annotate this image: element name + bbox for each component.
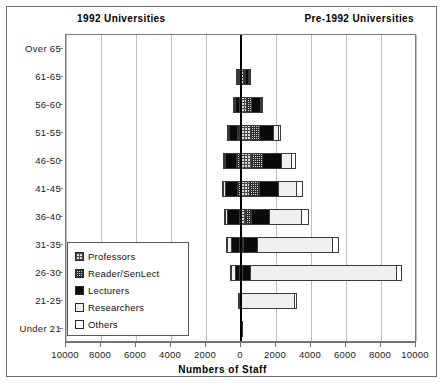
bar-segment — [396, 265, 402, 281]
legend-item[interactable]: Others — [75, 316, 184, 333]
stacked-bar-left — [224, 125, 241, 141]
x-axis-title: Numbers of Staff — [0, 364, 445, 375]
panel-header-left: 1992 Universities — [77, 13, 166, 24]
stacked-bar-right — [241, 237, 344, 253]
bar-segment — [269, 209, 302, 225]
x-axis-tick-label: 4000 — [159, 349, 181, 360]
x-axis-tick-label: 2000 — [194, 349, 216, 360]
bar-segment — [291, 153, 296, 169]
x-axis-tick — [135, 342, 136, 347]
x-axis-tick — [240, 342, 241, 347]
bar-segment — [278, 125, 281, 141]
bar-segment — [259, 125, 274, 141]
bar-segment — [250, 265, 397, 281]
y-axis-label: 51-55 — [35, 127, 61, 138]
stacked-bar-right — [241, 265, 404, 281]
stacked-bar-right — [241, 293, 300, 309]
x-axis-tick — [345, 342, 346, 347]
stacked-bar-left — [224, 237, 242, 253]
stacked-bar-right — [241, 69, 254, 85]
y-axis-label: 46-50 — [35, 155, 61, 166]
x-axis-tick — [100, 342, 101, 347]
bar-segment — [225, 181, 238, 197]
y-axis-label: 21-25 — [35, 295, 61, 306]
x-axis-tick — [170, 342, 171, 347]
stacked-bar-right — [241, 209, 314, 225]
legend-item[interactable]: Professors — [75, 248, 184, 265]
stacked-bar-right — [241, 125, 286, 141]
gridline — [416, 35, 417, 341]
bar-segment — [296, 181, 303, 197]
x-axis-tick-label: 6000 — [334, 349, 356, 360]
x-axis-tick-label: 10000 — [401, 349, 428, 360]
panel-header-right: Pre-1992 Universities — [304, 13, 414, 24]
bar-segment — [261, 97, 263, 113]
bar-segment — [262, 153, 282, 169]
y-axis-label: 26-30 — [35, 267, 61, 278]
researchers-swatch — [75, 303, 84, 312]
bar-segment — [259, 181, 280, 197]
y-axis-label: 31-35 — [35, 239, 61, 250]
x-axis-tick-label: 2000 — [264, 349, 286, 360]
bar-segment — [294, 293, 297, 309]
x-axis-tick — [65, 342, 66, 347]
legend-label: Reader/SenLect — [88, 268, 159, 279]
x-axis-tick-label: 4000 — [299, 349, 321, 360]
legend-label: Professors — [88, 251, 135, 262]
chart-figure: 1992 Universities Pre-1992 Universities … — [0, 0, 445, 387]
professors-swatch — [75, 252, 84, 261]
y-axis-label: Under 21 — [20, 323, 61, 334]
stacked-bar-right — [241, 181, 308, 197]
legend-item[interactable]: Lecturers — [75, 282, 184, 299]
stacked-bar-left — [219, 153, 241, 169]
bar-segment — [257, 237, 332, 253]
bar-segment — [251, 209, 270, 225]
bar-segment — [243, 237, 259, 253]
x-axis-tick — [275, 342, 276, 347]
panel-headers: 1992 Universities Pre-1992 Universities — [65, 10, 416, 34]
y-axis-label: Over 65 — [25, 43, 61, 54]
legend-label: Lecturers — [88, 285, 129, 296]
y-axis-label: 56-60 — [35, 99, 61, 110]
y-axis-label: 36-40 — [35, 211, 61, 222]
stacked-bar-right — [241, 153, 301, 169]
x-axis-tick-label: 6000 — [124, 349, 146, 360]
stacked-bar-left — [220, 209, 241, 225]
y-axis-label: 41-45 — [35, 183, 61, 194]
x-axis-tick — [310, 342, 311, 347]
legend-item[interactable]: Reader/SenLect — [75, 265, 184, 282]
x-axis-tick-label: 8000 — [89, 349, 111, 360]
bar-segment — [332, 237, 340, 253]
x-axis-tick-label: 0 — [237, 349, 242, 360]
chart-legend: ProfessorsReader/SenLectLecturersResearc… — [67, 242, 189, 336]
x-axis-tick-label: 8000 — [369, 349, 391, 360]
stacked-bar-right — [241, 97, 268, 113]
bar-segment — [249, 69, 251, 85]
y-axis-labels: Over 6561-6556-6051-5546-5041-4536-4031-… — [6, 34, 63, 342]
x-axis-tick — [380, 342, 381, 347]
x-axis-tick — [205, 342, 206, 347]
legend-label: Researchers — [88, 302, 144, 313]
others-swatch — [75, 320, 84, 329]
bar-segment — [301, 209, 309, 225]
stacked-bar-left — [218, 181, 241, 197]
bar-segment — [278, 181, 296, 197]
lecturers-swatch — [75, 286, 84, 295]
x-axis-tick-label: 10000 — [51, 349, 78, 360]
reader-swatch — [75, 269, 84, 278]
legend-item[interactable]: Researchers — [75, 299, 184, 316]
legend-items: ProfessorsReader/SenLectLecturersResearc… — [75, 248, 184, 333]
zero-axis-line — [240, 35, 242, 341]
legend-label: Others — [88, 319, 118, 330]
bar-segment — [241, 293, 295, 309]
y-axis-label: 61-65 — [35, 71, 61, 82]
x-axis-tick — [415, 342, 416, 347]
